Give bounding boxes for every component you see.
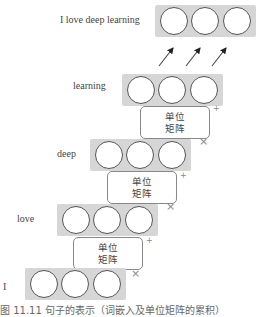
plus-operator: + bbox=[180, 171, 187, 180]
arrow-icon bbox=[159, 48, 173, 66]
row-label-deep: deep bbox=[57, 148, 76, 159]
node bbox=[125, 206, 153, 234]
times-operator: × bbox=[199, 135, 208, 148]
node bbox=[191, 7, 219, 35]
output-arrows bbox=[150, 40, 250, 72]
plus-operator: + bbox=[146, 236, 153, 245]
node bbox=[30, 270, 58, 298]
vector-deep bbox=[90, 139, 191, 171]
matrix-label-line1: 单位 bbox=[165, 111, 185, 123]
row-label-output: I love deep learning bbox=[60, 14, 140, 25]
node bbox=[190, 76, 218, 104]
vector-learning bbox=[122, 74, 223, 106]
plus-operator: + bbox=[213, 104, 220, 113]
node bbox=[62, 206, 90, 234]
node bbox=[61, 270, 89, 298]
matrix-label-line2: 矩阵 bbox=[132, 188, 152, 200]
arrow-icon bbox=[212, 48, 226, 66]
node bbox=[127, 76, 155, 104]
vector-love bbox=[57, 204, 158, 236]
row-label-love: love bbox=[17, 213, 34, 224]
node bbox=[160, 7, 188, 35]
times-operator: × bbox=[166, 200, 175, 213]
vector-output bbox=[155, 5, 256, 37]
node bbox=[93, 270, 121, 298]
row-label-i: I bbox=[3, 281, 6, 292]
identity-matrix-block: 单位 矩阵 bbox=[73, 237, 143, 270]
node bbox=[93, 206, 121, 234]
matrix-label-line2: 矩阵 bbox=[98, 254, 118, 266]
node bbox=[158, 141, 186, 169]
matrix-label-line2: 矩阵 bbox=[165, 123, 185, 135]
node bbox=[126, 141, 154, 169]
times-operator: × bbox=[131, 267, 140, 280]
figure-caption: 图 11.11 句子的表示（词嵌入及单位矩阵的累积） bbox=[0, 302, 225, 317]
vector-i bbox=[25, 268, 126, 300]
node bbox=[95, 141, 123, 169]
node bbox=[223, 7, 251, 35]
node bbox=[158, 76, 186, 104]
row-label-learning: learning bbox=[73, 80, 106, 91]
arrow-icon bbox=[186, 48, 200, 66]
matrix-label-line1: 单位 bbox=[98, 242, 118, 254]
matrix-label-line1: 单位 bbox=[132, 176, 152, 188]
